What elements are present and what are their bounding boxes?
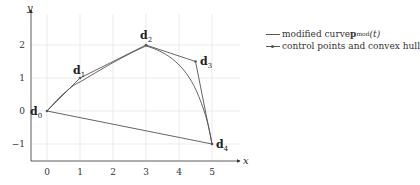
svg-text:3: 3 [143, 167, 149, 177]
label-d1: d1 [73, 64, 85, 79]
legend-curve-arg: (t) [370, 28, 381, 40]
legend-hull-text: control points and convex hull [282, 40, 420, 52]
svg-text:1: 1 [77, 167, 83, 177]
label-d4: d4 [216, 138, 229, 153]
svg-text:5: 5 [209, 167, 215, 177]
y-tick-labels: −1 0 1 2 [12, 40, 26, 149]
legend-item-curve: modified curve pmod (t) [266, 28, 420, 40]
legend-curve-sub: mod [356, 28, 369, 40]
grid [31, 14, 240, 161]
modified-curve [47, 46, 212, 144]
legend-curve-text: modified curve [282, 28, 350, 40]
x-axis-label: x [243, 155, 249, 166]
svg-text:1: 1 [19, 73, 25, 83]
convex-hull [47, 45, 212, 144]
curve-line-icon [266, 30, 280, 39]
line-with-dot-icon [266, 42, 280, 51]
svg-text:2: 2 [19, 40, 25, 50]
svg-text:−1: −1 [12, 139, 25, 149]
label-d3: d3 [200, 55, 212, 70]
svg-text:2: 2 [110, 167, 116, 177]
svg-text:4: 4 [176, 167, 182, 177]
label-d0: d0 [30, 105, 42, 120]
legend: modified curve pmod (t) control points a… [266, 28, 420, 52]
label-d2: d2 [140, 29, 152, 44]
svg-text:0: 0 [19, 106, 25, 116]
legend-item-hull: control points and convex hull [266, 40, 420, 52]
x-tick-labels: 0 1 2 3 4 5 [44, 167, 215, 177]
svg-text:0: 0 [44, 167, 50, 177]
y-axis-label: y [26, 2, 33, 13]
